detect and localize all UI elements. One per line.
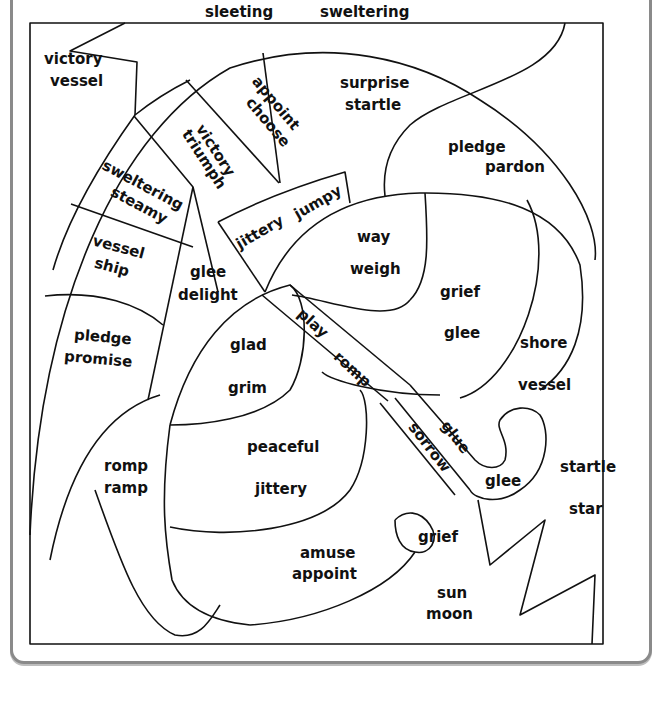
word-shore[interactable]: shore bbox=[520, 336, 567, 351]
word-weigh[interactable]: weigh bbox=[350, 262, 401, 277]
word-glee-3[interactable]: glee bbox=[485, 474, 521, 489]
word-startle[interactable]: startle bbox=[345, 98, 401, 113]
word-glad[interactable]: glad bbox=[230, 338, 267, 353]
word-surprise[interactable]: surprise bbox=[340, 76, 409, 91]
word-delight[interactable]: delight bbox=[178, 288, 238, 303]
word-moon[interactable]: moon bbox=[426, 607, 473, 622]
word-victory[interactable]: victory bbox=[44, 52, 102, 67]
word-glee[interactable]: glee bbox=[190, 265, 226, 280]
word-pledge[interactable]: pledge bbox=[448, 140, 506, 155]
word-vessel-3[interactable]: vessel bbox=[518, 378, 571, 393]
word-grim[interactable]: grim bbox=[228, 381, 267, 396]
word-startle-2[interactable]: startle bbox=[560, 460, 616, 475]
word-ramp[interactable]: ramp bbox=[104, 481, 148, 496]
word-grief-2[interactable]: grief bbox=[418, 530, 458, 545]
word-way[interactable]: way bbox=[357, 230, 390, 245]
word-glee-2[interactable]: glee bbox=[444, 326, 480, 341]
word-amuse[interactable]: amuse bbox=[300, 546, 356, 561]
word-pardon[interactable]: pardon bbox=[485, 160, 545, 175]
word-appoint-2[interactable]: appoint bbox=[292, 567, 357, 582]
word-sleeting[interactable]: sleeting bbox=[205, 5, 273, 20]
word-vessel[interactable]: vessel bbox=[50, 74, 103, 89]
word-sun[interactable]: sun bbox=[437, 586, 467, 601]
word-sweltering[interactable]: sweltering bbox=[320, 5, 409, 20]
word-jittery-2[interactable]: jittery bbox=[255, 482, 307, 497]
word-peaceful[interactable]: peaceful bbox=[247, 440, 319, 455]
word-romp-2[interactable]: romp bbox=[104, 459, 148, 474]
word-star[interactable]: star bbox=[569, 502, 603, 517]
word-grief[interactable]: grief bbox=[440, 285, 480, 300]
zigzag-top-left bbox=[70, 23, 137, 115]
